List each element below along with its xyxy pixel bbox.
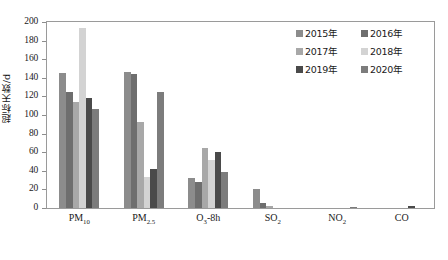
legend-swatch-icon (361, 48, 368, 55)
y-axis-tick-label: 80 (4, 129, 38, 139)
bar[interactable] (92, 109, 99, 208)
y-axis-tick-label: 140 (4, 73, 38, 83)
legend-swatch-icon (296, 30, 303, 37)
bar[interactable] (144, 177, 151, 208)
bar[interactable] (150, 169, 157, 208)
x-axis-tick-label: O3-8h (176, 212, 241, 227)
legend-item[interactable]: 2016年 (361, 24, 426, 42)
bar[interactable] (157, 92, 164, 208)
legend-item[interactable]: 2017年 (296, 42, 361, 60)
x-axis-tick-label: NO2 (305, 212, 370, 227)
y-axis-tick-label: 100 (4, 110, 38, 120)
legend-item[interactable]: 2018年 (361, 42, 426, 60)
legend-item[interactable]: 2020年 (361, 60, 426, 78)
x-axis-tick-label: SO2 (241, 212, 306, 227)
bar[interactable] (208, 160, 215, 208)
y-axis-tick-label: 0 (4, 203, 38, 213)
legend-swatch-icon (296, 48, 303, 55)
bar[interactable] (188, 178, 195, 208)
legend-swatch-icon (296, 66, 303, 73)
bar[interactable] (137, 122, 144, 208)
bar[interactable] (66, 92, 73, 208)
bar[interactable] (408, 206, 415, 208)
bar[interactable] (260, 203, 267, 208)
x-axis-tick-label: PM10 (47, 212, 112, 227)
y-axis-tick-label: 180 (4, 36, 38, 46)
legend-label: 2015年 (305, 26, 338, 40)
x-axis-tick-label: PM2.5 (112, 212, 177, 227)
bar[interactable] (253, 189, 260, 208)
bar[interactable] (73, 102, 80, 208)
legend-label: 2020年 (370, 62, 403, 76)
legend-item[interactable]: 2019年 (296, 60, 361, 78)
bar[interactable] (195, 182, 202, 208)
bar[interactable] (202, 148, 209, 208)
bar-group (47, 22, 112, 208)
y-axis-tick-label: 200 (4, 17, 38, 27)
legend-label: 2017年 (305, 44, 338, 58)
legend-swatch-icon (361, 30, 368, 37)
y-axis-tick-label: 60 (4, 147, 38, 157)
y-axis-tick-label: 160 (4, 54, 38, 64)
bar[interactable] (350, 207, 357, 208)
y-axis-tick-label: 20 (4, 184, 38, 194)
legend-label: 2016年 (370, 26, 403, 40)
bar[interactable] (79, 28, 86, 208)
bar[interactable] (59, 73, 66, 208)
legend-label: 2018年 (370, 44, 403, 58)
legend-label: 2019年 (305, 62, 338, 76)
bar-group (176, 22, 241, 208)
x-axis-tick-label: CO (370, 212, 435, 223)
legend-item[interactable]: 2015年 (296, 24, 361, 42)
chart-legend: 2015年2016年2017年2018年2019年2020年 (296, 24, 426, 78)
bar[interactable] (124, 72, 131, 208)
bar[interactable] (215, 152, 222, 208)
y-axis-tick-label: 40 (4, 166, 38, 176)
bar[interactable] (266, 206, 273, 208)
bar-group (112, 22, 177, 208)
bar[interactable] (221, 172, 228, 208)
bar[interactable] (86, 98, 93, 208)
bar[interactable] (131, 74, 138, 208)
y-axis-tick-label: 120 (4, 91, 38, 101)
legend-swatch-icon (361, 66, 368, 73)
chart-figure: 超标天数/d 020406080100120140160180200 PM10P… (0, 0, 448, 260)
